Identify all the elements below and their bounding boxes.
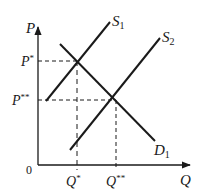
q-star-label: Q*: [66, 173, 81, 189]
s1-label: S1: [112, 13, 125, 31]
p-star-label: P*: [20, 53, 35, 69]
q-double-star-label: Q**: [106, 173, 126, 189]
supply-demand-diagram: P Q 0 P* P** Q* Q** S1 S2 D1: [0, 0, 198, 190]
origin-label: 0: [26, 163, 32, 177]
x-axis-label: Q: [180, 172, 191, 188]
d1-label: D1: [153, 142, 170, 160]
demand-curve-d1: [60, 44, 155, 141]
p-double-star-label: P**: [11, 92, 30, 108]
s2-label: S2: [162, 29, 175, 47]
y-axis-label: P: [25, 20, 35, 36]
